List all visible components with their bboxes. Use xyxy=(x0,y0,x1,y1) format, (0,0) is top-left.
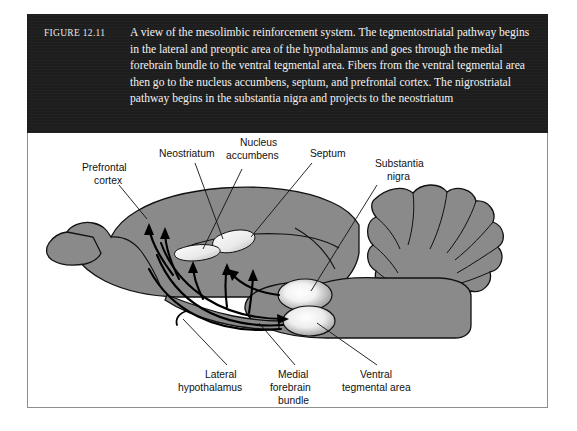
label-medial-forebrain-bundle-line2: forebrain xyxy=(270,382,311,393)
label-lateral-hypothalamus-line1: Lateral xyxy=(205,369,236,380)
figure-caption-banner: FIGURE 12.11 A view of the mesolimbic re… xyxy=(27,14,548,133)
brain-diagram: Prefrontal cortex Neostriatum Nucleus ac… xyxy=(27,133,548,408)
label-ventral-tegmental-area-line2: tegmental area xyxy=(342,382,411,393)
label-substantia-nigra-line1: Substantia xyxy=(375,158,424,169)
label-medial-forebrain-bundle-line3: bundle xyxy=(278,395,309,406)
label-lateral-hypothalamus-line2: hypothalamus xyxy=(178,382,242,393)
ventral-tegmental-area-nucleus xyxy=(283,306,335,336)
label-nucleus-accumbens-line1: Nucleus xyxy=(240,137,277,148)
label-ventral-tegmental-area-line1: Ventral xyxy=(360,369,392,380)
label-prefrontal-cortex-line2: cortex xyxy=(94,175,123,186)
brain-diagram-svg: Prefrontal cortex Neostriatum Nucleus ac… xyxy=(27,133,548,408)
olfactory-bulb-shape xyxy=(47,232,101,265)
pathway-lateral-hypothalamus xyxy=(176,311,187,325)
label-septum: Septum xyxy=(310,148,346,159)
label-substantia-nigra-line2: nigra xyxy=(387,171,410,182)
label-nucleus-accumbens-line2: accumbens xyxy=(226,150,279,161)
label-medial-forebrain-bundle-line1: Medial xyxy=(278,369,308,380)
label-prefrontal-cortex-line1: Prefrontal xyxy=(82,162,127,173)
figure-caption-text: A view of the mesolimbic reinforcement s… xyxy=(130,25,533,108)
label-neostriatum: Neostriatum xyxy=(159,148,215,159)
figure-number-label: FIGURE 12.11 xyxy=(44,28,105,38)
